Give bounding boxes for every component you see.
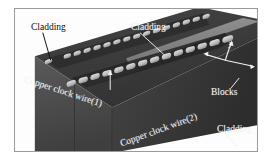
leader-line-cladding-bottom-right — [225, 133, 237, 147]
axis-label-y: y — [229, 40, 233, 48]
label-blocks: Blocks — [211, 88, 237, 98]
figure-frame: Cladding Cladding Blocks Cladding Copper… — [14, 8, 258, 152]
three-d-scene: Cladding Cladding Blocks Cladding Copper… — [15, 9, 257, 151]
label-cladding-top-center: Cladding — [131, 23, 166, 33]
label-cladding-top-left: Cladding — [31, 23, 66, 33]
figure-container: Cladding Cladding Blocks Cladding Copper… — [0, 0, 273, 167]
label-cladding-bottom-right: Cladding — [217, 125, 252, 135]
